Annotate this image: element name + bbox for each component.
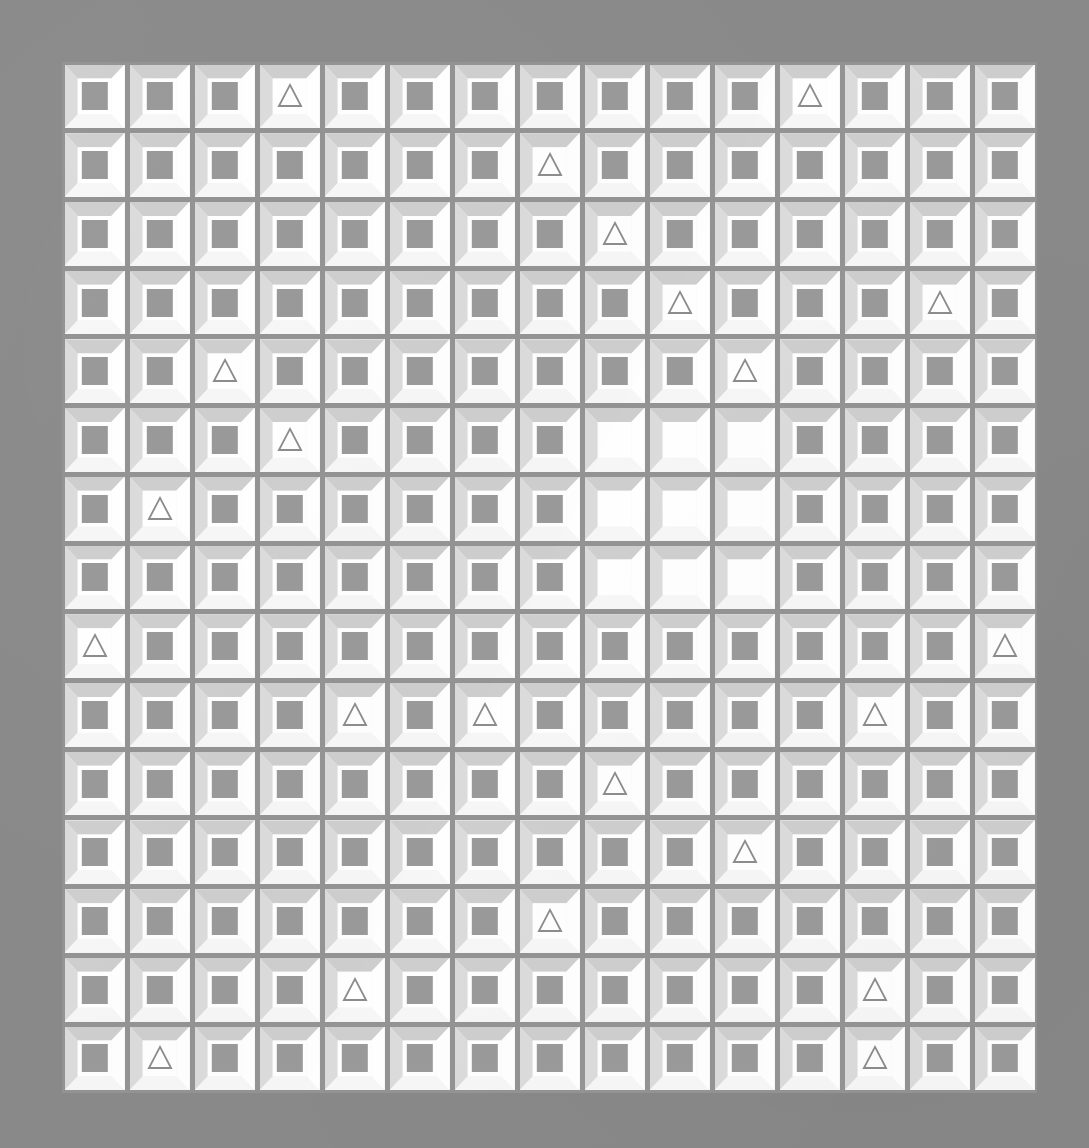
tile-r1-c14[interactable] [907,62,972,131]
tile-r1-c1[interactable] [62,62,127,131]
tile-r7-c3[interactable] [192,474,257,543]
tile-r9-c12[interactable] [777,612,842,681]
tile-r3-c11[interactable] [712,199,777,268]
tile-r3-c5[interactable] [322,199,387,268]
tile-r7-c1[interactable] [62,474,127,543]
tile-r10-c1[interactable] [62,680,127,749]
tile-r5-c8[interactable] [517,337,582,406]
tile-r7-c14[interactable] [907,474,972,543]
tile-r2-c9[interactable] [582,131,647,200]
tile-r2-c6[interactable] [387,131,452,200]
tile-r4-c9[interactable] [582,268,647,337]
tile-r1-c8[interactable] [517,62,582,131]
tile-r5-c3[interactable] [192,337,257,406]
tile-r11-c9[interactable] [582,749,647,818]
tile-r13-c8[interactable] [517,887,582,956]
tile-r6-c8[interactable] [517,406,582,475]
tile-r5-c2[interactable] [127,337,192,406]
tile-r2-c1[interactable] [62,131,127,200]
tile-r13-c5[interactable] [322,887,387,956]
tile-r8-c11-blank[interactable] [712,543,777,612]
tile-r7-c6[interactable] [387,474,452,543]
tile-r6-c15[interactable] [972,406,1037,475]
tile-r11-c8[interactable] [517,749,582,818]
tile-r8-c13[interactable] [842,543,907,612]
tile-r3-c13[interactable] [842,199,907,268]
tile-r9-c6[interactable] [387,612,452,681]
tile-r13-c4[interactable] [257,887,322,956]
tile-r4-c2[interactable] [127,268,192,337]
tile-r4-c8[interactable] [517,268,582,337]
tile-r12-c12[interactable] [777,818,842,887]
tile-r4-c3[interactable] [192,268,257,337]
tile-r4-c10[interactable] [647,268,712,337]
tile-r4-c1[interactable] [62,268,127,337]
tile-r15-c9[interactable] [582,1024,647,1093]
tile-r13-c7[interactable] [452,887,517,956]
tile-r1-c11[interactable] [712,62,777,131]
tile-r7-c12[interactable] [777,474,842,543]
tile-r7-c2[interactable] [127,474,192,543]
tile-r14-c11[interactable] [712,955,777,1024]
tile-r13-c12[interactable] [777,887,842,956]
tile-r12-c11[interactable] [712,818,777,887]
tile-r14-c13[interactable] [842,955,907,1024]
tile-r12-c15[interactable] [972,818,1037,887]
tile-r15-c1[interactable] [62,1024,127,1093]
tile-r2-c3[interactable] [192,131,257,200]
tile-r14-c3[interactable] [192,955,257,1024]
tile-r14-c7[interactable] [452,955,517,1024]
tile-r6-c14[interactable] [907,406,972,475]
tile-r6-c4[interactable] [257,406,322,475]
tile-r12-c13[interactable] [842,818,907,887]
tile-r5-c11[interactable] [712,337,777,406]
tile-r11-c1[interactable] [62,749,127,818]
tile-r2-c2[interactable] [127,131,192,200]
tile-r13-c14[interactable] [907,887,972,956]
tile-r3-c14[interactable] [907,199,972,268]
tile-r14-c10[interactable] [647,955,712,1024]
tile-r10-c9[interactable] [582,680,647,749]
tile-r5-c4[interactable] [257,337,322,406]
tile-r4-c11[interactable] [712,268,777,337]
tile-r15-c11[interactable] [712,1024,777,1093]
tile-r6-c13[interactable] [842,406,907,475]
tile-r12-c4[interactable] [257,818,322,887]
tile-r6-c10-blank[interactable] [647,406,712,475]
tile-r1-c9[interactable] [582,62,647,131]
tile-r9-c8[interactable] [517,612,582,681]
tile-r15-c15[interactable] [972,1024,1037,1093]
tile-r10-c8[interactable] [517,680,582,749]
tile-r8-c14[interactable] [907,543,972,612]
tile-r7-c4[interactable] [257,474,322,543]
tile-r9-c5[interactable] [322,612,387,681]
tile-r8-c5[interactable] [322,543,387,612]
tile-r10-c11[interactable] [712,680,777,749]
tile-r8-c12[interactable] [777,543,842,612]
tile-r5-c13[interactable] [842,337,907,406]
tile-r8-c15[interactable] [972,543,1037,612]
tile-r5-c10[interactable] [647,337,712,406]
tile-r11-c13[interactable] [842,749,907,818]
tile-r14-c8[interactable] [517,955,582,1024]
tile-r13-c3[interactable] [192,887,257,956]
tile-r11-c14[interactable] [907,749,972,818]
tile-r15-c13[interactable] [842,1024,907,1093]
tile-r11-c10[interactable] [647,749,712,818]
tile-r12-c14[interactable] [907,818,972,887]
tile-r4-c12[interactable] [777,268,842,337]
tile-r14-c14[interactable] [907,955,972,1024]
tile-r11-c6[interactable] [387,749,452,818]
tile-r14-c4[interactable] [257,955,322,1024]
tile-r10-c10[interactable] [647,680,712,749]
tile-r3-c2[interactable] [127,199,192,268]
tile-r12-c10[interactable] [647,818,712,887]
tile-r2-c13[interactable] [842,131,907,200]
tile-r7-c8[interactable] [517,474,582,543]
tile-r9-c7[interactable] [452,612,517,681]
tile-r9-c13[interactable] [842,612,907,681]
tile-r15-c14[interactable] [907,1024,972,1093]
tile-r10-c14[interactable] [907,680,972,749]
tile-r15-c12[interactable] [777,1024,842,1093]
tile-r4-c15[interactable] [972,268,1037,337]
